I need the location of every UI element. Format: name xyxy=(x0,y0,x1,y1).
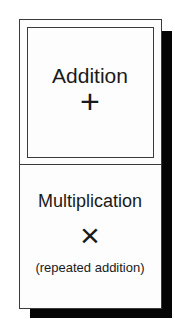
section-divider xyxy=(19,164,161,165)
multiplication-subtitle: (repeated addition) xyxy=(19,260,161,275)
times-icon: × xyxy=(19,218,161,252)
multiplication-title: Multiplication xyxy=(19,191,161,212)
plus-icon: + xyxy=(19,84,161,118)
